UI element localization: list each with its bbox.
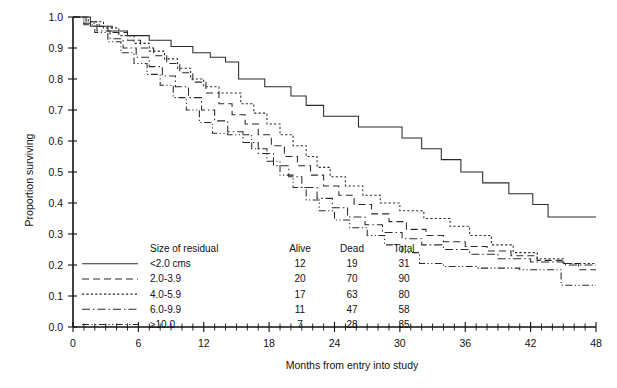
x-tick-label: 30 — [394, 337, 406, 349]
y-tick-labels: 0.00.10.20.30.40.50.60.70.80.91.0 — [48, 11, 63, 333]
y-tick-label: 0.5 — [48, 166, 63, 178]
legend: Size of residualAliveDeadTotal<2.0 cms12… — [82, 243, 415, 330]
x-tick-label: 24 — [329, 337, 341, 349]
legend-header: Dead — [340, 243, 364, 254]
legend-row-label: 2.0-3.9 — [150, 273, 182, 284]
survival-chart: 0.00.10.20.30.40.50.60.70.80.91.0 061218… — [0, 0, 617, 388]
legend-row-alive: 11 — [295, 304, 306, 315]
y-axis-title: Proportion surviving — [23, 133, 35, 226]
y-tick-label: 0.6 — [48, 135, 63, 147]
y-tick-label: 0.8 — [48, 73, 63, 85]
y-tick-label: 0.9 — [48, 42, 63, 54]
legend-row-dead: 28 — [346, 319, 358, 330]
y-tick-label: 0.2 — [48, 259, 63, 271]
legend-row-alive: 12 — [294, 258, 306, 269]
legend-row-alive: 17 — [294, 289, 306, 300]
legend-row-dead: 19 — [346, 258, 358, 269]
x-tick-label: 36 — [459, 337, 471, 349]
kaplan-meier-plot: 0.00.10.20.30.40.50.60.70.80.91.0 061218… — [0, 0, 617, 388]
legend-header: Alive — [289, 243, 311, 254]
legend-row-total: 35 — [398, 319, 410, 330]
survival-curve-2 — [73, 17, 596, 263]
y-tick-label: 0.3 — [48, 228, 63, 240]
legend-row-total: 80 — [398, 289, 410, 300]
legend-row-total: 31 — [398, 258, 410, 269]
x-tick-label: 6 — [135, 337, 141, 349]
legend-row-label: 4.0-5.9 — [150, 289, 182, 300]
x-tick-label: 48 — [590, 337, 602, 349]
survival-curve-3 — [73, 17, 596, 265]
legend-row-total: 90 — [398, 273, 410, 284]
legend-row-dead: 70 — [346, 273, 358, 284]
legend-row-dead: 63 — [346, 289, 358, 300]
x-axis-title: Months from entry into study — [286, 359, 419, 371]
y-tick-label: 0.4 — [48, 197, 63, 209]
x-tick-label: 18 — [263, 337, 275, 349]
x-tick-labels: 0612182430364248 — [70, 337, 602, 349]
legend-header: Total — [393, 243, 414, 254]
x-tick-label: 12 — [198, 337, 210, 349]
legend-row-label: 6.0-9.9 — [150, 304, 182, 315]
legend-row-alive: 20 — [294, 273, 306, 284]
legend-row-label: <2.0 cms — [150, 258, 191, 269]
legend-row-label: ≥10.0 — [150, 319, 175, 330]
y-tick-label: 0.7 — [48, 104, 63, 116]
y-tick-label: 1.0 — [48, 11, 63, 23]
y-tick-label: 0.1 — [48, 290, 63, 302]
legend-row-alive: 7 — [297, 319, 303, 330]
x-tick-label: 0 — [70, 337, 76, 349]
survival-curve-0 — [73, 17, 596, 217]
legend-header: Size of residual — [150, 243, 218, 254]
legend-row-total: 58 — [398, 304, 410, 315]
legend-row-dead: 47 — [346, 304, 358, 315]
y-tick-label: 0.0 — [48, 321, 63, 333]
survival-curve-1 — [73, 17, 596, 270]
x-tick-label: 42 — [525, 337, 537, 349]
